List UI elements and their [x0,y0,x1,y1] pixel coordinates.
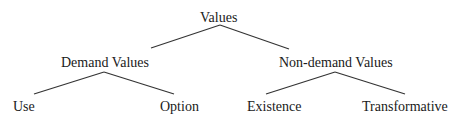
edge-values-to-nondemand [220,25,289,49]
edge-nondemand-to-transformative [335,72,405,94]
node-existence: Existence [247,100,301,114]
value-tree-diagram: Values Demand Values Non-demand Values U… [0,0,453,125]
node-use: Use [13,100,35,114]
edge-demand-to-use [34,72,104,94]
node-option: Option [160,100,199,114]
node-non-demand-values: Non-demand Values [279,56,393,70]
node-transformative: Transformative [362,100,448,114]
edge-nondemand-to-existence [266,72,335,94]
edge-values-to-demand [151,25,220,48]
node-demand-values: Demand Values [61,56,149,70]
edge-demand-to-option [104,72,174,94]
node-values: Values [200,11,237,25]
